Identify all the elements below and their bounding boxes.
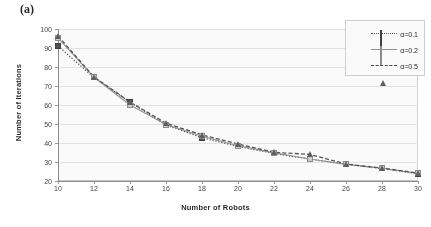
- data-point-marker: [55, 43, 61, 49]
- legend-label: α=0.5: [400, 63, 418, 70]
- data-point-marker: [271, 149, 277, 155]
- data-point-marker: [127, 99, 133, 105]
- data-point-marker: [415, 170, 421, 176]
- legend-swatch-dashed: [371, 61, 397, 71]
- legend-label: α=0.1: [400, 31, 418, 38]
- triangle-icon: [380, 63, 386, 86]
- x-axis-title: Number of Robots: [0, 203, 431, 212]
- legend-item-alpha-01[interactable]: α=0.1: [346, 26, 424, 42]
- data-point-marker: [91, 74, 97, 80]
- legend-label: α=0.2: [400, 47, 418, 54]
- data-point-marker: [235, 141, 241, 147]
- data-point-marker: [55, 33, 61, 39]
- data-point-marker: [307, 151, 313, 157]
- data-point-marker: [343, 161, 349, 167]
- legend-item-alpha-05[interactable]: α=0.5: [346, 58, 424, 74]
- chart-figure: (a) 2030405060708090100 1012141618202224…: [0, 0, 431, 227]
- legend-swatch-dotted: [371, 29, 397, 39]
- legend-item-alpha-02[interactable]: α=0.2: [346, 42, 424, 58]
- data-point-marker: [199, 132, 205, 138]
- legend: α=0.1 α=0.2 α=0.5: [345, 20, 425, 76]
- data-point-marker: [379, 165, 385, 171]
- y-axis-title: Number of Iterations: [14, 38, 23, 168]
- data-point-marker: [163, 120, 169, 126]
- legend-swatch-solid: [371, 45, 397, 55]
